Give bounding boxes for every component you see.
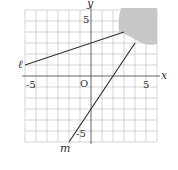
coordinate-plane: x y O -5 5 5 -5 ℓ m: [0, 0, 178, 170]
shaded-region: [119, 8, 157, 45]
line-l-label: ℓ: [18, 58, 23, 71]
y-tick-pos5: 5: [83, 14, 89, 25]
line-l: [25, 32, 124, 65]
origin-label: O: [80, 78, 88, 89]
y-axis-label: y: [86, 0, 94, 10]
x-tick-pos5: 5: [143, 79, 149, 90]
line-m-label: m: [60, 142, 70, 155]
x-tick-neg5: -5: [26, 79, 36, 90]
y-tick-neg5: -5: [76, 128, 86, 139]
x-axis-label: x: [161, 69, 168, 82]
